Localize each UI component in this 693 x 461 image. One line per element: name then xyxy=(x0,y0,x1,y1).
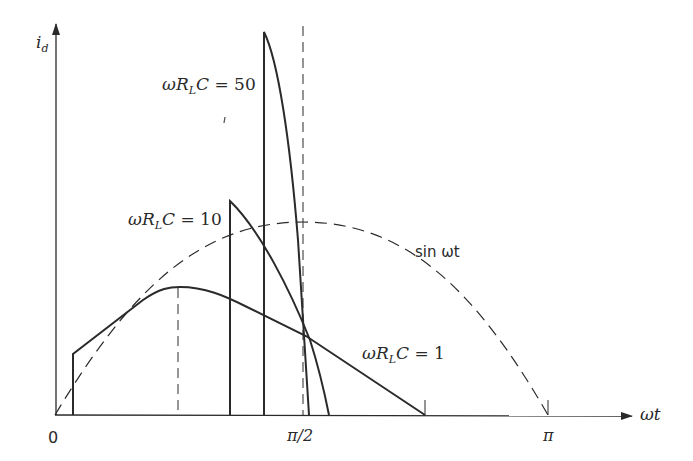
tick-label-pi: π xyxy=(543,426,554,445)
sin-label: sin ωt xyxy=(415,243,460,261)
diagram-canvas: ωid ωt 0 π/2 π ωRLC = 50 ωRLC = 10 ωRLC … xyxy=(0,0,693,461)
diagram-svg xyxy=(0,0,693,461)
x-axis xyxy=(55,415,632,416)
rlc10-label: ωRLC = 10 xyxy=(128,209,222,232)
x-axis-label: ωt xyxy=(640,404,661,424)
rlc50-curve xyxy=(264,32,309,415)
tick-label-0: 0 xyxy=(48,428,58,447)
rlc1-label: ωRLC = 1 xyxy=(362,343,445,366)
rlc50-label: ωRLC = 50 xyxy=(162,74,256,97)
stray-mark xyxy=(224,117,225,123)
y-axis-label: ωid xyxy=(36,32,48,55)
rlc10-curve xyxy=(230,201,329,415)
tick-label-pi-half: π/2 xyxy=(287,426,313,445)
